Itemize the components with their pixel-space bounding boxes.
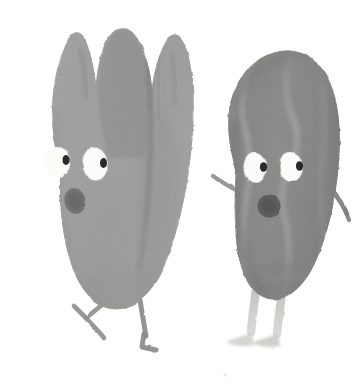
right-char-right-eye-pupil [296, 161, 303, 171]
left-eye-pupil [63, 155, 70, 165]
right-eye-pupil [100, 158, 107, 168]
right-character-mouth-core [262, 199, 277, 214]
right-char-left-eye-pupil [260, 162, 267, 172]
faint-speck [223, 373, 226, 376]
illustration-canvas: Two seed characters illustration [0, 0, 363, 385]
right-character-left-leg [251, 290, 256, 332]
illustration-svg: Two seed characters illustration [0, 0, 363, 385]
